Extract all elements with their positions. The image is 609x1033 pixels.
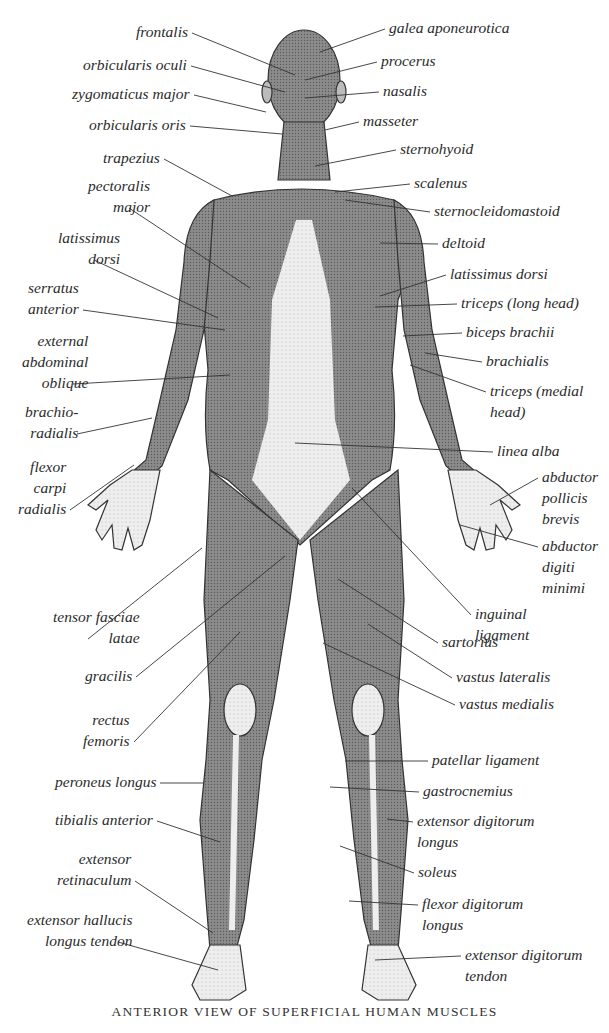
label-orbicularis-oris: orbicularis oris [89,114,186,135]
label-abductor-pollicis-brevis: abductor pollicis brevis [542,466,598,529]
leader-line-tibialis-anterior [157,821,220,842]
label-brachioradialis: brachio- radialis [25,401,78,443]
label-peroneus-longus: peroneus longus [55,771,156,792]
label-extensor-retinaculum: extensor retinaculum [57,848,131,890]
leader-line-brachialis [425,353,482,362]
leader-line-scalenus [335,184,410,192]
label-tensor-fasciae-latae: tensor fasciae latae [53,606,140,648]
label-extensor-digitorum-tendon: extensor digitorum tendon [465,944,583,986]
leader-line-deltoid [380,243,438,244]
label-extensor-digitorum-longus: extensor digitorum longus [417,810,535,852]
label-zygomaticus-major: zygomaticus major [72,83,190,104]
label-nasalis: nasalis [383,80,427,101]
label-masseter: masseter [363,110,418,131]
label-linea-alba: linea alba [497,440,559,461]
leader-line-flexor-digitorum-longus [349,901,418,905]
leader-line-biceps-brachii [403,333,462,336]
label-sternocleidomastoid: sternocleidomastoid [434,200,560,221]
leader-line-galea-aponeurotica [320,29,385,52]
leader-line-extensor-digitorum-tendon [375,956,461,960]
leader-line-pectoralis-major [129,208,250,288]
leader-line-soleus [340,846,414,873]
label-patellar-ligament: patellar ligament [432,749,539,770]
leader-line-brachioradialis [77,418,152,434]
label-orbicularis-oculi: orbicularis oculi [83,54,187,75]
leader-line-frontalis [192,33,295,75]
label-biceps-brachii: biceps brachii [466,321,554,342]
leader-line-extensor-digitorum-longus [387,819,413,822]
leader-line-serratus-anterior [83,310,225,330]
leader-line-vastus-medialis [323,643,455,705]
label-deltoid: deltoid [442,232,485,253]
leader-line-trapezius [164,159,232,196]
leader-line-extensor-retinaculum [135,881,213,933]
label-scalenus: scalenus [414,172,467,193]
figure-caption: ANTERIOR VIEW OF SUPERFICIAL HUMAN MUSCL… [0,1004,609,1020]
label-galea-aponeurotica: galea aponeurotica [389,17,509,38]
label-procerus: procerus [381,50,436,71]
label-rectus-femoris: rectus femoris [83,709,130,751]
label-sternohyoid: sternohyoid [400,138,473,159]
leader-line-triceps-long-head [375,304,457,307]
leader-line-external-abdominal-oblique [73,375,230,384]
label-flexor-digitorum-longus: flexor digitorum longus [422,893,523,935]
leader-line-sternocleidomastoid [345,200,430,212]
leader-line-extensor-hallucis-longus-tendon [118,942,218,970]
muscle-diagram: frontalisorbicularis oculizygomaticus ma… [0,0,609,1033]
label-brachialis: brachialis [486,350,549,371]
leader-line-orbicularis-oris [190,126,282,134]
label-external-abdominal-oblique: external abdominal oblique [22,330,88,393]
label-gracilis: gracilis [85,665,132,686]
label-tibialis-anterior: tibialis anterior [55,809,153,830]
leader-line-triceps-medial-head [410,365,486,392]
label-latissimus-dorsi-right: latissimus dorsi [450,263,548,284]
label-soleus: soleus [418,861,457,882]
label-triceps-long-head: triceps (long head) [461,292,579,313]
label-serratus-anterior: serratus anterior [28,277,79,319]
label-vastus-lateralis: vastus lateralis [456,666,550,687]
label-latissimus-dorsi-left: latissimus dorsi [58,227,120,269]
label-gastrocnemius: gastrocnemius [423,780,513,801]
leader-line-abductor-pollicis-brevis [490,478,538,505]
leader-line-latissimus-dorsi-right [380,275,446,296]
label-vastus-medialis: vastus medialis [459,693,554,714]
leader-line-gastrocnemius [330,787,419,792]
label-abductor-digiti-minimi: abductor digiti minimi [542,535,598,598]
leader-line-abductor-digiti-minimi [460,525,538,547]
label-extensor-hallucis-longus-tendon: extensor hallucis longus tendon [27,909,132,951]
leader-line-gracilis [136,556,285,677]
label-frontalis: frontalis [136,21,188,42]
leader-line-rectus-femoris [134,632,240,742]
label-trapezius: trapezius [103,147,160,168]
leader-line-masseter [325,122,359,130]
label-triceps-medial-head: triceps (medial head) [490,380,583,422]
leader-line-nasalis [305,92,379,98]
leader-line-linea-alba [295,443,493,452]
leader-line-sartorius [338,579,438,643]
label-pectoralis-major: pectoralis major [88,175,150,217]
leader-line-zygomaticus-major [194,95,266,112]
leader-line-inguinal-ligament [352,488,471,615]
leader-line-flexor-carpi-radialis [70,465,134,510]
leader-line-sternohyoid [315,150,396,166]
label-flexor-carpi-radialis: flexor carpi radialis [18,456,66,519]
label-sartorius: sartorius [442,631,498,652]
leader-line-orbicularis-oculi [191,66,285,92]
leader-line-procerus [305,62,377,80]
